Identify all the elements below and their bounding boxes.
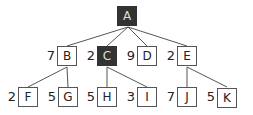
node-label: J (185, 90, 189, 104)
node-f: F (18, 87, 38, 107)
node-label: E (183, 49, 191, 63)
node-g: G (58, 87, 78, 107)
node-c: C (97, 46, 117, 66)
node-e: E (177, 46, 197, 66)
node-j: J (177, 87, 197, 107)
weight-i: 3 (121, 87, 135, 107)
node-i: I (137, 87, 157, 107)
node-a: A (117, 6, 137, 26)
weight-j: 7 (161, 87, 175, 107)
node-label: H (102, 90, 111, 104)
weight-c: 2 (81, 46, 95, 66)
node-label: C (103, 49, 111, 63)
node-label: F (25, 90, 32, 104)
node-h: H (97, 87, 117, 107)
weight-e: 2 (161, 46, 175, 66)
node-label: A (123, 9, 131, 23)
weight-h: 5 (81, 87, 95, 107)
node-label: B (63, 49, 71, 63)
weight-k: 5 (201, 87, 215, 107)
weight-d: 9 (121, 46, 135, 66)
node-b: B (57, 46, 77, 66)
weight-b: 7 (41, 46, 55, 66)
weight-g: 5 (42, 87, 56, 107)
weight-f: 2 (2, 87, 16, 107)
node-d: D (137, 46, 157, 66)
node-label: K (223, 91, 231, 105)
node-label: G (63, 90, 72, 104)
node-k: K (217, 88, 237, 108)
node-label: I (145, 90, 149, 104)
node-label: D (142, 49, 151, 63)
